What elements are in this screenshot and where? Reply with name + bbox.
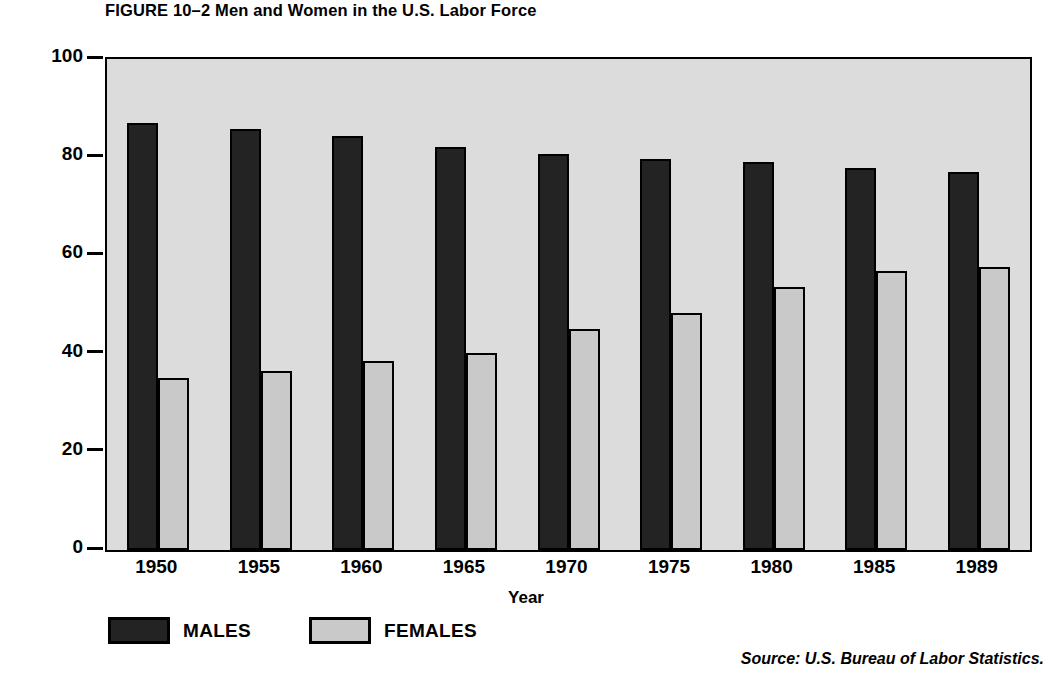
x-tick-label-1965: 1965 [414, 556, 514, 578]
bars-layer [107, 59, 1030, 550]
bar-female-1975 [671, 313, 702, 550]
bar-male-1985 [845, 168, 876, 550]
bar-female-1970 [569, 329, 600, 550]
y-tick-label: 80 [62, 143, 83, 165]
bar-male-1989 [948, 172, 979, 550]
bar-male-1965 [435, 147, 466, 550]
bar-male-1955 [230, 129, 261, 550]
figure-container: FIGURE 10–2 Men and Women in the U.S. La… [0, 0, 1052, 679]
x-tick-label-1950: 1950 [106, 556, 206, 578]
legend-label-males: MALES [183, 620, 251, 642]
x-axis-title: Year [0, 588, 1052, 608]
y-tick-mark [87, 56, 103, 59]
bar-male-1970 [538, 154, 569, 550]
y-tick-mark [87, 252, 103, 255]
legend-item-males: MALES [108, 617, 251, 644]
legend-item-females: FEMALES [309, 617, 477, 644]
x-tick-label-1955: 1955 [209, 556, 309, 578]
bar-male-1980 [743, 162, 774, 550]
legend-swatch-males [108, 617, 170, 644]
y-tick-label: 0 [72, 536, 83, 558]
y-tick-mark [87, 547, 103, 550]
y-tick-label: 60 [62, 241, 83, 263]
legend-label-females: FEMALES [384, 620, 477, 642]
legend-swatch-females [309, 617, 371, 644]
x-tick-label-1980: 1980 [722, 556, 822, 578]
bar-male-1950 [127, 123, 158, 550]
chart-legend: MALESFEMALES [108, 617, 519, 644]
bar-female-1989 [979, 267, 1010, 550]
bar-female-1985 [876, 271, 907, 550]
x-tick-label-1960: 1960 [311, 556, 411, 578]
y-tick-mark [87, 154, 103, 157]
bar-male-1975 [640, 159, 671, 550]
y-tick-mark [87, 350, 103, 353]
y-tick-label: 100 [51, 45, 83, 67]
bar-female-1955 [261, 371, 292, 550]
plot-area [105, 57, 1032, 552]
bar-female-1950 [158, 378, 189, 550]
y-tick-label: 40 [62, 340, 83, 362]
x-tick-label-1985: 1985 [824, 556, 924, 578]
figure-title: FIGURE 10–2 Men and Women in the U.S. La… [105, 1, 537, 20]
x-tick-label-1975: 1975 [619, 556, 719, 578]
bar-female-1960 [363, 361, 394, 550]
y-tick-mark [87, 448, 103, 451]
source-note: Source: U.S. Bureau of Labor Statistics. [741, 650, 1044, 668]
bar-female-1965 [466, 353, 497, 550]
x-tick-label-1970: 1970 [517, 556, 617, 578]
bar-male-1960 [332, 136, 363, 550]
x-tick-label-1989: 1989 [927, 556, 1027, 578]
bar-female-1980 [774, 287, 805, 550]
y-axis-title: Percent in the labor force [0, 0, 4, 152]
y-tick-label: 20 [62, 438, 83, 460]
